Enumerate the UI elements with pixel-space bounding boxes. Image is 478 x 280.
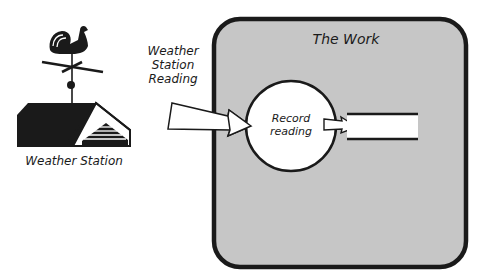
weather-vane-building-icon [17,26,130,146]
external-entity-label: Weather Station [14,155,134,169]
flow-in-label-line-3: Reading [136,73,210,87]
process-label-line-1: Record [256,113,326,126]
flow-in-label-line-2: Station [136,59,210,73]
process-label: Record reading [256,113,326,138]
process-label-line-2: reading [256,126,326,139]
work-box-title: The Work [300,31,392,47]
diagram-canvas [0,0,478,280]
data-store [347,114,418,139]
flow-in-label-line-1: Weather [136,45,210,59]
flow-in-label: Weather Station Reading [136,45,210,86]
